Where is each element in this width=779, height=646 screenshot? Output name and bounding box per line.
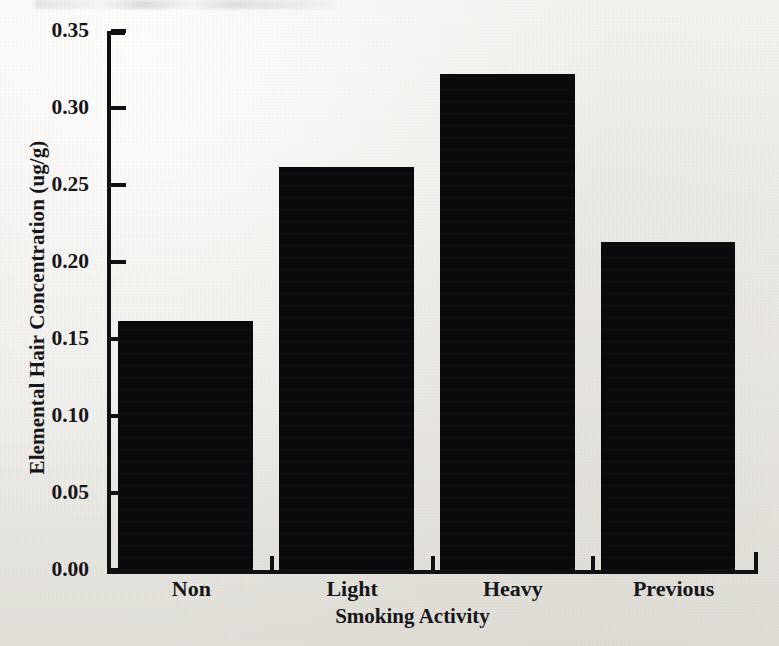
bar [440,74,575,570]
bar-chart: Elemental Hair Concentration (ug/g) 0.35… [0,0,779,646]
bar [118,321,253,570]
x-axis-title: Smoking Activity [0,604,779,629]
y-axis-tick-label: 0.25 [51,174,89,196]
y-axis-tick-label: 0.20 [51,251,89,273]
x-axis-tick-label: Non [111,578,272,600]
scanned-page: Elemental Hair Concentration (ug/g) 0.35… [0,0,779,646]
y-axis-tick [111,106,126,110]
x-axis-line [107,570,758,574]
x-axis-tick [431,556,435,570]
y-axis-tick-label: 0.15 [51,328,89,350]
bar [601,242,736,570]
y-axis-title: Elemental Hair Concentration (ug/g) [25,28,50,588]
x-axis-tick-label: Heavy [433,578,594,600]
y-axis-tick-label: 0.30 [51,97,89,119]
x-axis-tick-label: Light [272,578,433,600]
y-axis-tick [111,29,126,33]
x-axis-tick [591,556,595,570]
y-axis-tick [111,260,126,264]
y-axis-tick [111,183,126,187]
y-axis-tick-label: 0.35 [51,20,89,42]
x-axis-tick [270,556,274,570]
y-axis-tick-label: 0.05 [51,482,89,504]
bar [279,167,414,570]
x-axis-right-cap [754,552,758,574]
y-axis-tick-label: 0.10 [51,405,89,427]
x-axis-tick-label: Previous [593,578,754,600]
y-axis-tick-label: 0.00 [51,559,89,581]
